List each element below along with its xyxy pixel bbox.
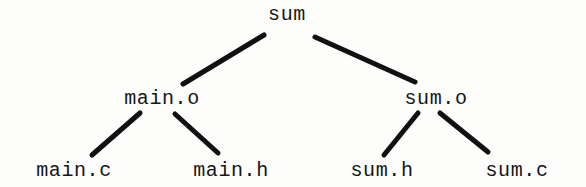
- edge-main-o-to-main-c: [92, 113, 140, 155]
- node-sum: sum: [268, 5, 306, 25]
- node-main-h: main.h: [193, 161, 269, 181]
- edge-sum-o-to-sum-c: [440, 113, 488, 152]
- edge-sum-to-sum-o: [315, 37, 415, 82]
- edge-sum-to-main-o: [183, 35, 264, 84]
- node-sum-c: sum.c: [485, 161, 548, 181]
- node-main-o: main.o: [124, 89, 200, 109]
- dependency-tree-diagram: sum main.o sum.o main.c main.h sum.h sum…: [0, 0, 586, 187]
- node-main-c: main.c: [36, 161, 112, 181]
- edge-main-o-to-main-h: [175, 114, 218, 153]
- node-sum-o: sum.o: [404, 89, 467, 109]
- edge-sum-o-to-sum-h: [384, 113, 418, 155]
- node-sum-h: sum.h: [350, 161, 413, 181]
